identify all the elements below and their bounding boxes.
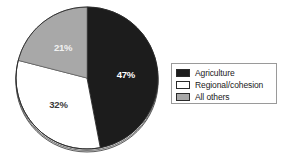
pie-chart-svg: 47% 32% 21% xyxy=(0,0,175,165)
chart-legend: Agriculture Regional/cohesion All others xyxy=(171,63,277,104)
legend-item-all-others: All others xyxy=(176,91,273,102)
legend-item-agriculture: Agriculture xyxy=(176,67,273,78)
pie-data-label-all-others: 21% xyxy=(54,42,73,53)
legend-swatch-agriculture xyxy=(176,69,190,77)
legend-item-regional-cohesion: Regional/cohesion xyxy=(176,79,273,90)
pie-data-label-agriculture: 47% xyxy=(117,69,136,80)
legend-label-agriculture: Agriculture xyxy=(195,68,235,78)
legend-label-regional-cohesion: Regional/cohesion xyxy=(195,80,263,90)
pie-data-label-regional-cohesion: 32% xyxy=(49,99,68,110)
pie-chart-area: 47% 32% 21% xyxy=(0,0,175,165)
legend-swatch-all-others xyxy=(176,93,190,101)
pie-chart-figure: 47% 32% 21% Agriculture Regional/cohesio… xyxy=(0,0,287,165)
legend-label-all-others: All others xyxy=(195,92,229,102)
legend-swatch-regional-cohesion xyxy=(176,81,190,89)
